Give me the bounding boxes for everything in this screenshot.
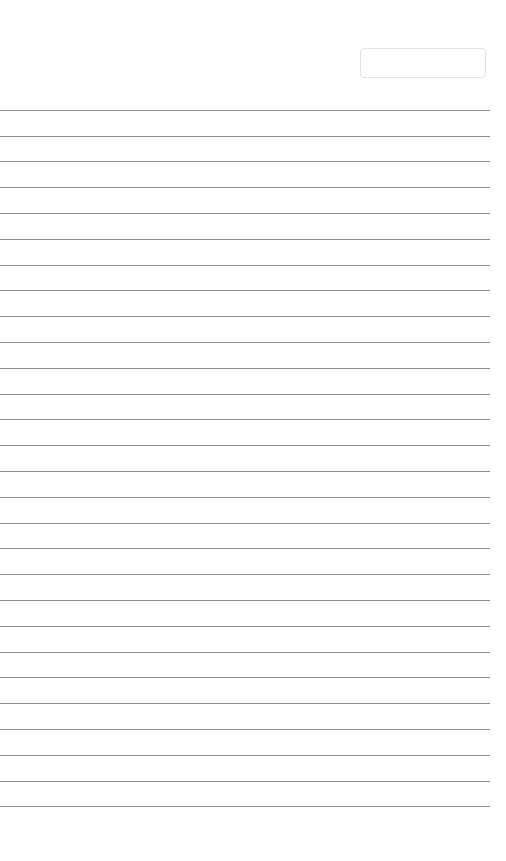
rule-line-text[interactable] (6, 373, 488, 397)
rule-line-text[interactable] (6, 760, 488, 784)
rule-line-text[interactable] (6, 140, 488, 164)
rule-line-text[interactable] (6, 502, 488, 526)
ruled-lines-sheet (0, 0, 506, 861)
rule-line-text[interactable] (6, 553, 488, 577)
rule-line-text[interactable] (6, 321, 488, 345)
rule-line-text[interactable] (6, 244, 488, 268)
lined-paper-page (0, 0, 506, 861)
rule-line-text[interactable] (6, 89, 488, 113)
rule-line-text[interactable] (6, 424, 488, 448)
rule-line-text[interactable] (6, 115, 488, 139)
rule-line-text[interactable] (6, 398, 488, 422)
rule-line-text[interactable] (6, 579, 488, 603)
rule-line-text[interactable] (6, 708, 488, 732)
rule-line-text[interactable] (6, 785, 488, 809)
rule-line-text[interactable] (6, 656, 488, 680)
rule-line-text[interactable] (6, 450, 488, 474)
rule-line-text[interactable] (6, 682, 488, 706)
rule-line-text[interactable] (6, 269, 488, 293)
rule-line-text[interactable] (6, 347, 488, 371)
rule-line-text[interactable] (6, 476, 488, 500)
rule-line-text[interactable] (6, 295, 488, 319)
rule-line-text[interactable] (6, 192, 488, 216)
rule-line-text[interactable] (6, 605, 488, 629)
rule-line-text[interactable] (6, 166, 488, 190)
rule-line-text[interactable] (6, 631, 488, 655)
rule-line-text[interactable] (6, 218, 488, 242)
rule-line-text[interactable] (6, 734, 488, 758)
rule-line-text[interactable] (6, 527, 488, 551)
